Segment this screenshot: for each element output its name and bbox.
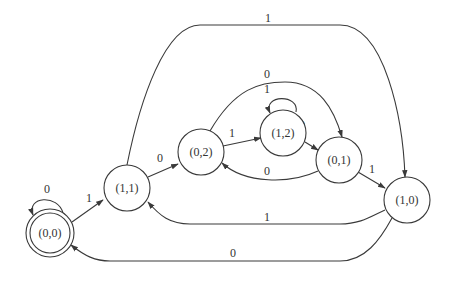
- edge-label-02-12: 1: [229, 126, 235, 140]
- edge-label-01-02: 0: [264, 164, 270, 178]
- state-1-0: (1,0): [384, 177, 430, 223]
- edge-11-10: [127, 25, 405, 177]
- edge-11-02: [148, 164, 178, 177]
- state-label: (1,2): [272, 126, 295, 140]
- edge-label-10-00: 0: [230, 246, 236, 260]
- state-0-2: (0,2): [178, 129, 224, 175]
- state-1-1: (1,1): [104, 165, 150, 211]
- state-0-0: (0,0): [26, 209, 74, 257]
- edge-label-02-01: 0: [264, 67, 270, 81]
- state-label: (1,1): [116, 181, 139, 195]
- state-label: (0,0): [39, 226, 62, 240]
- state-0-1: (0,1): [316, 137, 362, 183]
- edge-01-02: [222, 163, 318, 180]
- edge-label-10-11: 1: [264, 210, 270, 224]
- edge-label-11-10: 1: [265, 11, 271, 25]
- edge-12-01: [305, 142, 318, 150]
- edge-label-01-10: 1: [369, 162, 375, 176]
- state-1-2: (1,2): [260, 110, 306, 156]
- edge-label-00-00: 0: [44, 182, 50, 196]
- state-label: (1,0): [396, 193, 419, 207]
- state-diagram: 0 1 0 1 1 0 1 0 0 1 1 0 (0,0) (1,1) (0,2…: [0, 0, 453, 282]
- state-label: (0,2): [190, 145, 213, 159]
- state-label: (0,1): [328, 153, 351, 167]
- edge-label-12-12: 1: [264, 82, 270, 96]
- edge-label-00-11: 1: [86, 191, 92, 205]
- edge-label-11-02: 0: [157, 151, 163, 165]
